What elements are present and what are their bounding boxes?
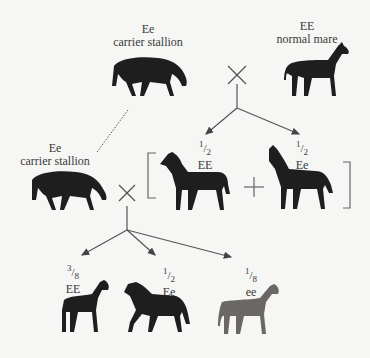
horse-icon-offspring-1-2-Ee (122, 280, 192, 336)
horse-icon-offspring-EE (158, 150, 232, 212)
cross-symbol-top (228, 66, 246, 84)
horse-icon-offspring-3-8-EE (62, 278, 112, 334)
horse-icon-offspring-1-8-ee (218, 282, 282, 336)
horse-icon-carrier-stallion-top (110, 52, 190, 102)
horse-icon-normal-mare (282, 40, 352, 100)
dotted-lineage-line (97, 110, 128, 152)
plus-symbol (244, 177, 264, 197)
description: carrier stallion (113, 36, 183, 49)
stallion-top-label: Ee carrier stallion (113, 23, 183, 49)
horse-icon-offspring-Ee (265, 145, 335, 211)
left-bracket (148, 153, 156, 198)
stallion-backcross-label: Ee carrier stallion (20, 142, 90, 168)
horse-icon-carrier-stallion-backcross (28, 168, 110, 214)
cross-symbol-middle (119, 185, 135, 201)
description: carrier stallion (20, 155, 90, 168)
right-bracket (343, 162, 350, 208)
